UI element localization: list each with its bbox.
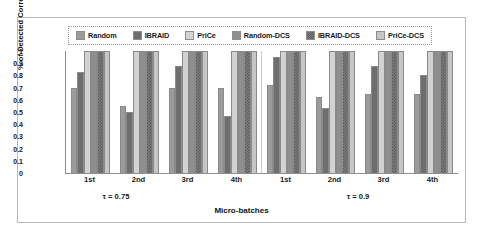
bar-random: [365, 94, 372, 173]
bar-group: [360, 51, 409, 173]
bar-ibraid: [175, 66, 182, 173]
bar-ibraid-dcs: [97, 51, 104, 173]
bar-ibraid: [273, 57, 280, 173]
x-tick-label: 4th: [212, 175, 261, 184]
y-tick-label: 0: [1, 170, 23, 177]
bar-ibraid: [371, 66, 378, 173]
bar-ibraid: [224, 116, 231, 173]
bar-price-dcs: [398, 51, 405, 173]
bar-group: [66, 51, 115, 173]
y-tick-label: 0.4: [1, 121, 23, 128]
legend-swatch-icon: [185, 31, 194, 40]
legend-item-price-dcs: PriCe-DCS: [376, 31, 424, 40]
bar-price: [378, 51, 385, 173]
x-tick-label: 2nd: [310, 175, 359, 184]
legend-label: IBRAID-DCS: [318, 31, 360, 40]
bar-group: [311, 51, 360, 173]
legend-swatch-icon: [232, 31, 241, 40]
bar-random: [169, 88, 176, 173]
bar-price: [329, 51, 336, 173]
bar-group: [115, 51, 164, 173]
y-tick-label: 0.8: [1, 72, 23, 79]
bar-price-dcs: [202, 51, 209, 173]
bar-ibraid: [420, 75, 427, 173]
bar-group: [164, 51, 213, 173]
bar-random: [71, 88, 78, 173]
bar-random: [120, 106, 127, 173]
bar-random-dcs: [189, 51, 196, 173]
panel-divider: [261, 51, 262, 173]
legend-swatch-icon: [133, 31, 142, 40]
bar-ibraid: [126, 112, 133, 173]
y-tick-label: 0.3: [1, 133, 23, 140]
x-tick-label: 3rd: [359, 175, 408, 184]
x-axis-ticks: 1st2nd3rd4th1st2nd3rd4th: [65, 175, 457, 184]
legend-item-random-dcs: Random-DCS: [232, 31, 290, 40]
legend-label: Random-DCS: [244, 31, 290, 40]
bar-price: [280, 51, 287, 173]
y-tick-label: 1: [1, 48, 23, 55]
bar-random-dcs: [385, 51, 392, 173]
bar-random-dcs: [91, 51, 98, 173]
bar-group: [262, 51, 311, 173]
bar-price: [427, 51, 434, 173]
x-tick-label: 4th: [408, 175, 457, 184]
x-tick-label: 1st: [261, 175, 310, 184]
x-tick-label: 2nd: [114, 175, 163, 184]
y-tick-label: 0.5: [1, 109, 23, 116]
chart-legend: RandomIBRAIDPriCeRandom-DCSIBRAID-DCSPri…: [68, 26, 432, 45]
legend-item-ibraid: IBRAID: [133, 31, 170, 40]
bar-ibraid-dcs: [244, 51, 251, 173]
x-tick-label: 1st: [65, 175, 114, 184]
legend-label: PriCe: [197, 31, 216, 40]
bar-ibraid-dcs: [391, 51, 398, 173]
bar-ibraid-dcs: [440, 51, 447, 173]
bar-price: [182, 51, 189, 173]
legend-label: Random: [88, 31, 117, 40]
bar-ibraid-dcs: [146, 51, 153, 173]
bar-random: [267, 85, 274, 173]
bar-group: [213, 51, 262, 173]
x-tick-label: 3rd: [163, 175, 212, 184]
bar-group: [409, 51, 458, 173]
y-tick-label: 0.6: [1, 96, 23, 103]
legend-swatch-icon: [376, 31, 385, 40]
bar-ibraid: [322, 108, 329, 173]
bar-ibraid-dcs: [195, 51, 202, 173]
bar-random: [218, 88, 225, 173]
bar-random-dcs: [287, 51, 294, 173]
bar-ibraid: [77, 72, 84, 173]
bar-random-dcs: [336, 51, 343, 173]
legend-item-price: PriCe: [185, 31, 216, 40]
bar-random-dcs: [140, 51, 147, 173]
legend-item-random: Random: [76, 31, 117, 40]
bar-random: [414, 94, 421, 173]
y-tick-label: 0.9: [1, 60, 23, 67]
bar-price-dcs: [349, 51, 356, 173]
y-tick-label: 0.1: [1, 157, 23, 164]
bar-random: [316, 97, 323, 173]
y-tick-label: 0.7: [1, 84, 23, 91]
bar-price: [231, 51, 238, 173]
x-axis-label: Micro-batches: [18, 206, 465, 215]
panel-label-left: τ = 0.75: [56, 192, 176, 201]
legend-swatch-icon: [76, 31, 85, 40]
bar-ibraid-dcs: [293, 51, 300, 173]
chart-figure: RandomIBRAIDPriCeRandom-DCSIBRAID-DCSPri…: [17, 17, 466, 223]
legend-label: PriCe-DCS: [388, 31, 424, 40]
bar-price-dcs: [447, 51, 454, 173]
panel-label-right: τ = 0.9: [298, 192, 418, 201]
bar-price-dcs: [153, 51, 160, 173]
bar-price: [133, 51, 140, 173]
bar-random-dcs: [238, 51, 245, 173]
bar-ibraid-dcs: [342, 51, 349, 173]
bar-random-dcs: [434, 51, 441, 173]
legend-item-ibraid-dcs: IBRAID-DCS: [306, 31, 360, 40]
bar-price-dcs: [251, 51, 258, 173]
legend-swatch-icon: [306, 31, 315, 40]
bar-price-dcs: [104, 51, 111, 173]
bar-price-dcs: [300, 51, 307, 173]
bar-groups: [66, 51, 458, 173]
legend-label: IBRAID: [145, 31, 170, 40]
bar-price: [84, 51, 91, 173]
